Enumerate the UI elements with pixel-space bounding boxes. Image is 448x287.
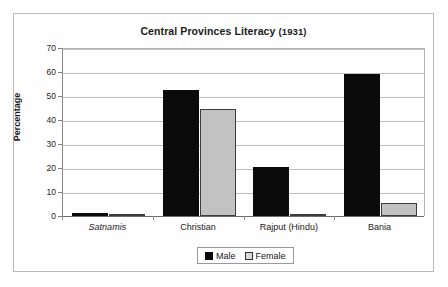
gridline (63, 49, 424, 50)
x-tick-mark (62, 216, 63, 220)
black-square-icon (205, 252, 213, 260)
chart-title: Central Provinces Literacy (1931) (13, 25, 434, 37)
x-tick-label: Christian (153, 222, 244, 232)
bar-male-rajput-hindu (253, 167, 289, 216)
legend-entry-female: Female (245, 251, 286, 261)
y-tick-label: 40 (34, 115, 56, 125)
y-tick-label: 10 (34, 187, 56, 197)
y-tick-label: 30 (34, 139, 56, 149)
y-tick-label: 60 (34, 67, 56, 77)
x-tick-mark (334, 216, 335, 220)
white-square-icon (245, 252, 253, 260)
plot-area (62, 48, 425, 216)
y-axis-title: Percentage (12, 87, 22, 147)
x-tick-mark (153, 216, 154, 220)
bar-male-christian (163, 90, 199, 216)
y-tick-label: 50 (34, 91, 56, 101)
y-tick-label: 0 (34, 211, 56, 221)
y-tick-label: 70 (34, 43, 56, 53)
chart-title-main: Central Provinces Literacy (140, 25, 275, 37)
x-tick-label: Satnamis (62, 222, 153, 232)
legend-label: Female (256, 251, 286, 261)
legend-entry-male: Male (205, 251, 236, 261)
chart-figure: Central Provinces Literacy (1931) Percen… (0, 0, 448, 287)
legend-label: Male (216, 251, 236, 261)
bar-female-christian (200, 109, 236, 216)
y-tick-label: 20 (34, 163, 56, 173)
bar-male-bania (344, 74, 380, 216)
chart-legend: MaleFemale (197, 247, 294, 264)
x-tick-mark (244, 216, 245, 220)
x-tick-label: Bania (334, 222, 425, 232)
x-tick-label: Rajput (Hindu) (244, 222, 335, 232)
bar-female-bania (381, 203, 417, 216)
chart-title-year: (1931) (279, 26, 307, 37)
